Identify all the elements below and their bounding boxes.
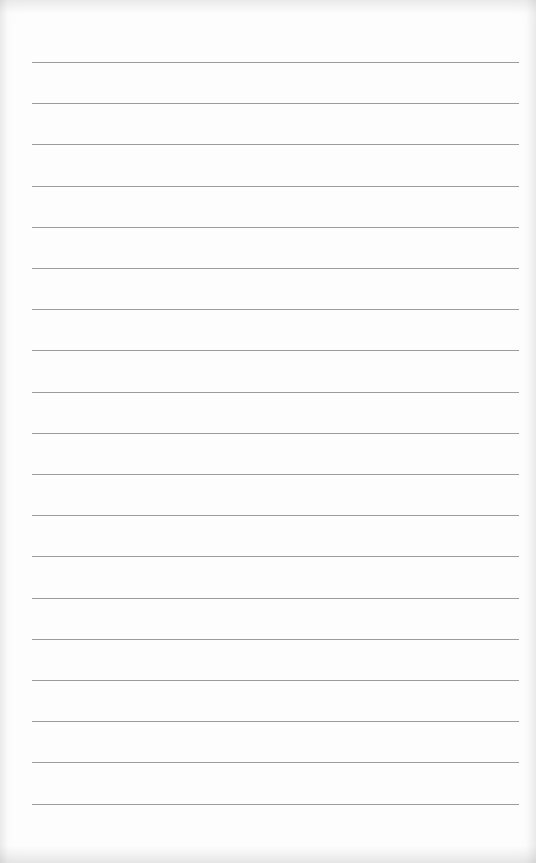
ruled-line [32,186,519,187]
ruled-line [32,762,519,763]
ruled-line [32,598,519,599]
ruled-line [32,721,519,722]
ruled-line [32,268,519,269]
ruled-line [32,556,519,557]
ruled-line [32,309,519,310]
page-edge-shadow-left [0,0,8,863]
ruled-line [32,103,519,104]
page-edge-shadow-right [526,0,536,863]
page-edge-shadow-bottom [0,845,536,863]
ruled-line [32,350,519,351]
ruled-line [32,144,519,145]
ruled-line [32,680,519,681]
lined-paper-page [0,0,536,863]
ruled-line [32,62,519,63]
ruled-line [32,392,519,393]
page-edge-shadow-top [0,0,536,14]
ruled-line [32,227,519,228]
ruled-line [32,433,519,434]
ruled-line [32,474,519,475]
ruled-line [32,639,519,640]
ruled-line [32,804,519,805]
ruled-line [32,515,519,516]
